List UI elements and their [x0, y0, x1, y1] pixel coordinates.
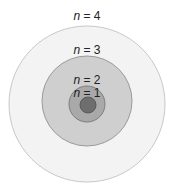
label-n3: n = 3 — [73, 43, 100, 57]
label-n1: n = 1 — [73, 86, 100, 100]
shell-diagram: n = 4 n = 3 n = 2 n = 1 — [0, 0, 175, 186]
label-n4: n = 4 — [73, 9, 100, 23]
label-n2: n = 2 — [73, 73, 100, 87]
